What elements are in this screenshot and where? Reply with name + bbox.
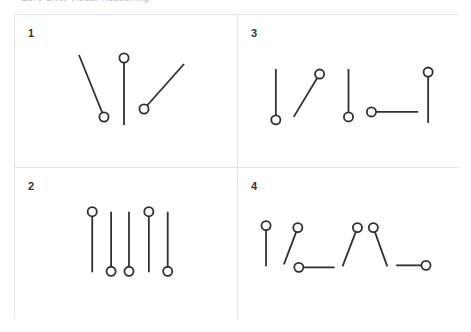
- pin-head-circle: [119, 53, 128, 62]
- panel-1-canvas: [15, 15, 237, 167]
- figure-stage: Zero Shot Visual Reasoning 1 3 2 4: [0, 0, 471, 332]
- panel-2-pin-5: [163, 212, 172, 276]
- pin-head-circle: [107, 267, 116, 276]
- pin-head-circle: [367, 107, 376, 116]
- pin-head-circle: [315, 69, 324, 78]
- pin-stem: [343, 228, 358, 267]
- pin-head-circle: [163, 267, 172, 276]
- panel-1-pin-3: [139, 64, 184, 114]
- panel-1-pin-2: [119, 53, 128, 125]
- panel-1-pin-1: [79, 55, 109, 122]
- panel-2-pin-2: [107, 212, 116, 276]
- panel-4-pin-3: [294, 263, 334, 272]
- pin-head-circle: [424, 68, 433, 77]
- panel-grid: 1 3 2 4: [14, 14, 458, 318]
- panel-4-pin-1: [261, 221, 270, 266]
- panel-3-pin-5: [424, 68, 433, 123]
- pin-head-circle: [144, 207, 153, 216]
- panel-3-pin-1: [271, 69, 280, 124]
- pin-stem: [144, 64, 184, 109]
- pin-head-circle: [353, 223, 362, 232]
- panel-4-pin-2: [284, 223, 302, 264]
- pin-head-circle: [88, 207, 97, 216]
- panel-3: 3: [237, 15, 459, 167]
- panel-4-pin-4: [343, 223, 362, 266]
- pin-stem: [284, 228, 298, 265]
- panel-3-pin-3: [344, 69, 353, 121]
- panel-4-pin-5: [369, 223, 387, 266]
- panel-2: 2: [15, 167, 237, 319]
- panel-2-canvas: [15, 168, 237, 319]
- pin-head-circle: [99, 112, 108, 121]
- panel-4-canvas: [238, 168, 459, 319]
- pin-head-circle: [261, 221, 270, 230]
- pin-head-circle: [294, 263, 303, 272]
- pin-head-circle: [271, 115, 280, 124]
- pin-head-circle: [369, 223, 378, 232]
- pin-stem: [79, 55, 104, 117]
- panel-2-pin-3: [124, 212, 133, 276]
- pin-stem: [294, 74, 320, 117]
- panel-4-pin-6: [396, 261, 430, 270]
- pin-head-circle: [344, 112, 353, 121]
- panel-2-pin-1: [88, 207, 97, 272]
- pin-head-circle: [421, 261, 430, 270]
- panel-3-canvas: [238, 15, 459, 167]
- pin-head-circle: [293, 223, 302, 232]
- panel-2-pin-4: [144, 207, 153, 272]
- panel-4: 4: [237, 167, 459, 319]
- pin-stem: [373, 228, 387, 267]
- pin-head-circle: [124, 267, 133, 276]
- panel-1: 1: [15, 15, 237, 167]
- panel-3-pin-2: [294, 69, 324, 116]
- pin-head-circle: [139, 104, 148, 113]
- figure-caption: Zero Shot Visual Reasoning: [22, 0, 222, 3]
- panel-3-pin-4: [367, 107, 418, 116]
